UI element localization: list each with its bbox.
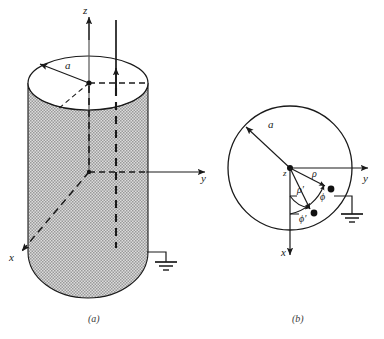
label-axis-x-panel-a: x: [8, 251, 14, 263]
label-radius-a-panel-b: a: [268, 118, 274, 130]
label-axis-z-panel-b: z: [282, 168, 287, 178]
panel-a-group: z y x a (a): [8, 4, 206, 325]
ground-symbol-panel-b: [341, 214, 363, 222]
caption-panel-a: (a): [88, 313, 100, 325]
source-point-dot: [311, 210, 318, 217]
figure-container: z y x a (a): [0, 0, 384, 339]
origin-dot-panel-a: [86, 80, 91, 85]
label-axis-x-panel-b: x: [280, 246, 286, 258]
label-axis-y-panel-b: y: [362, 172, 368, 184]
ground-lead-panel-a: [147, 252, 166, 262]
label-axis-z-panel-a: z: [82, 4, 88, 16]
label-radius-a-panel-a: a: [65, 59, 71, 71]
label-rho-prime: ρ′: [296, 184, 305, 195]
label-rho: ρ: [311, 168, 317, 179]
field-point-dot: [328, 186, 335, 193]
label-phi-prime: ϕ′: [299, 213, 307, 224]
ground-symbol-panel-a: [155, 262, 177, 270]
label-phi: ϕ: [320, 191, 325, 202]
figure-canvas: z y x a (a): [0, 0, 384, 339]
panel-b-group: a y x z ρ ρ′ ϕ ϕ′ (b): [228, 106, 368, 325]
label-axis-y-panel-a: y: [200, 172, 206, 184]
caption-panel-b: (b): [292, 313, 304, 325]
cylinder-body: [28, 83, 148, 298]
